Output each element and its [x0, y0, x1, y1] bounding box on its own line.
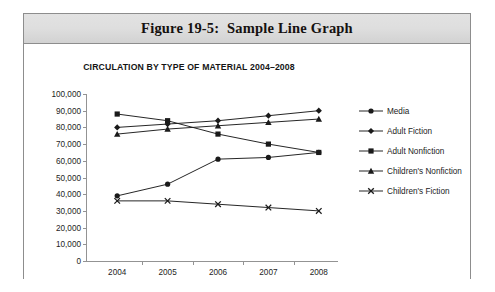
- diamond-marker: [265, 113, 271, 119]
- y-tick-label: 10,000: [56, 240, 81, 249]
- x-tick: [294, 261, 295, 265]
- legend-label: Adult Fiction: [384, 127, 432, 136]
- legend-label: Children's Fiction: [384, 187, 450, 196]
- legend-label: Media: [384, 107, 409, 116]
- square-marker: [115, 111, 120, 116]
- circle-marker: [115, 193, 120, 198]
- series-media: [115, 150, 322, 199]
- y-tick-label: 80,000: [56, 123, 81, 132]
- x-axis-line: [86, 261, 338, 262]
- y-tick-label: 70,000: [56, 140, 81, 149]
- circle-marker: [165, 182, 170, 187]
- legend-label: Adult Nonfiction: [384, 147, 444, 156]
- legend-item-children-s-nonfiction[interactable]: Children's Nonfiction: [358, 161, 470, 181]
- legend-marker-triangle-icon: [358, 165, 384, 177]
- y-tick-label: 0: [76, 257, 81, 266]
- diamond-marker: [316, 108, 322, 114]
- square-marker: [316, 150, 321, 155]
- legend-item-children-s-fiction[interactable]: Children's Fiction: [358, 181, 470, 201]
- series-children-s-fiction: [114, 198, 321, 214]
- plot-region: 010,00020,00030,00040,00050,00060,00070,…: [86, 94, 338, 261]
- figure-box: Figure 19-5: Sample Line Graph CIRCULATI…: [23, 13, 471, 279]
- legend-marker-x-icon: [358, 185, 384, 197]
- y-tick-label: 30,000: [56, 206, 81, 215]
- square-marker: [165, 118, 170, 123]
- series-lines: [86, 94, 338, 261]
- legend-item-media[interactable]: Media: [358, 101, 470, 121]
- chart-title: CIRCULATION BY TYPE OF MATERIAL 2004–200…: [24, 62, 354, 72]
- x-tick-label: 2004: [108, 268, 126, 277]
- y-tick-label: 40,000: [56, 190, 81, 199]
- legend-label: Children's Nonfiction: [384, 167, 462, 176]
- figure-title-band: Figure 19-5: Sample Line Graph: [24, 14, 470, 44]
- legend-marker-square-icon: [358, 145, 384, 157]
- y-tick-label: 90,000: [56, 106, 81, 115]
- x-tick-label: 2008: [310, 268, 328, 277]
- circle-marker: [266, 155, 271, 160]
- legend: MediaAdult FictionAdult NonfictionChildr…: [358, 101, 470, 201]
- chart-area: CIRCULATION BY TYPE OF MATERIAL 2004–200…: [24, 45, 470, 279]
- x-tick-label: 2007: [259, 268, 277, 277]
- legend-item-adult-nonfiction[interactable]: Adult Nonfiction: [358, 141, 470, 161]
- y-tick-label: 20,000: [56, 223, 81, 232]
- figure-title: Figure 19-5: Sample Line Graph: [141, 20, 353, 37]
- series-line: [117, 201, 319, 211]
- x-tick: [243, 261, 244, 265]
- y-tick-label: 60,000: [56, 156, 81, 165]
- square-marker: [215, 131, 220, 136]
- x-tick: [142, 261, 143, 265]
- circle-marker: [215, 157, 220, 162]
- legend-marker-diamond-icon: [358, 125, 384, 137]
- square-marker: [368, 148, 373, 153]
- y-tick-label: 50,000: [56, 173, 81, 182]
- legend-item-adult-fiction[interactable]: Adult Fiction: [358, 121, 470, 141]
- legend-marker-circle-icon: [358, 105, 384, 117]
- diamond-marker: [114, 124, 120, 130]
- circle-marker: [368, 108, 373, 113]
- y-tick-label: 100,000: [51, 90, 81, 99]
- square-marker: [266, 142, 271, 147]
- diamond-marker: [368, 128, 374, 134]
- x-tick-label: 2005: [158, 268, 176, 277]
- figure-page: Figure 19-5: Sample Line Graph CIRCULATI…: [0, 0, 495, 292]
- y-tick: [83, 261, 87, 262]
- x-tick: [193, 261, 194, 265]
- x-tick-label: 2006: [209, 268, 227, 277]
